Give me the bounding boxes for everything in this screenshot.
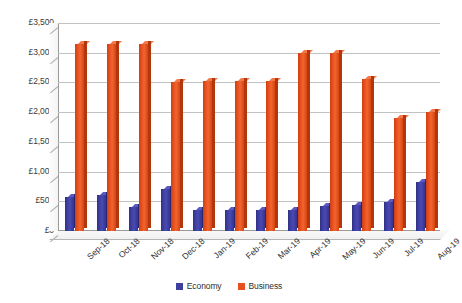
bar-economy (288, 210, 297, 231)
bar-business (203, 81, 212, 231)
bar-side-face (307, 50, 310, 228)
x-axis-tick-label: Sep-18 (85, 236, 112, 261)
bar-business (330, 53, 339, 231)
bar-economy (225, 210, 234, 231)
bar-side-face (212, 78, 215, 228)
bar-economy (161, 189, 170, 231)
bar-front-face (320, 206, 329, 231)
legend-item-economy[interactable]: Economy (176, 281, 222, 291)
bar-front-face (256, 210, 265, 231)
bar-group (256, 23, 275, 231)
bar-business (171, 82, 180, 231)
bar-side-face (116, 41, 119, 228)
bar-business (362, 79, 371, 231)
y-axis-tick-label: £1,500 (2, 137, 54, 146)
bar-side-face (371, 76, 374, 228)
bar-front-face (97, 195, 106, 231)
bar-side-face (84, 41, 87, 228)
bar-group (384, 23, 403, 231)
x-axis-tick-label: Apr-19 (307, 236, 332, 260)
bar-front-face (193, 210, 202, 231)
bar-business (266, 81, 275, 231)
bar-front-face (225, 210, 234, 231)
bar-economy (256, 210, 265, 231)
bar-business (298, 53, 307, 231)
bar-front-face (298, 53, 307, 231)
x-axis-tick-label: Mar-19 (276, 236, 302, 261)
bar-series-container (58, 23, 440, 231)
bar-front-face (161, 189, 170, 231)
bar-front-face (266, 81, 275, 231)
bar-front-face (352, 205, 361, 231)
legend-label: Economy (187, 281, 222, 291)
bar-group (352, 23, 371, 231)
bar-group (225, 23, 244, 231)
bar-side-face (180, 79, 183, 228)
bar-side-face (435, 109, 438, 228)
bar-front-face (107, 44, 116, 231)
bar-group (288, 23, 307, 231)
bar-front-face (362, 79, 371, 231)
bar-economy (384, 202, 393, 231)
bar-group (97, 23, 116, 231)
bar-side-face (244, 78, 247, 228)
bar-business (426, 112, 435, 231)
bar-economy (97, 195, 106, 231)
chart-side-wall (49, 23, 58, 231)
x-axis-tick-label: Dec-18 (180, 236, 207, 261)
bar-side-face (339, 50, 342, 228)
bar-business (235, 81, 244, 231)
bar-economy (65, 197, 74, 231)
y-axis-tick-label: £3,500 (2, 18, 54, 27)
bar-front-face (129, 207, 138, 231)
bar-economy (352, 205, 361, 231)
bar-front-face (65, 197, 74, 231)
bar-group (193, 23, 212, 231)
bar-side-face (275, 78, 278, 228)
x-axis-labels: Sep-18Oct-18Nov-18Dec-18Jan-19Feb-19Mar-… (58, 236, 440, 284)
y-axis-tick-label: £2,000 (2, 107, 54, 116)
bar-side-face (148, 41, 151, 228)
bar-front-face (75, 44, 84, 231)
bar-front-face (139, 44, 148, 231)
chart-legend: EconomyBusiness (0, 281, 458, 291)
bar-front-face (288, 210, 297, 231)
bar-front-face (384, 202, 393, 231)
bar-economy (129, 207, 138, 231)
bar-front-face (426, 112, 435, 231)
x-axis-tick-label: Aug-19 (435, 236, 462, 261)
x-axis-tick-label: Nov-18 (148, 236, 175, 261)
bar-front-face (203, 81, 212, 231)
bar-economy (193, 210, 202, 231)
y-axis-tick-label: £2,500 (2, 77, 54, 86)
bar-group (161, 23, 180, 231)
y-axis-tick-label: £0 (2, 226, 54, 235)
legend-swatch-icon (176, 283, 183, 290)
bar-front-face (235, 81, 244, 231)
legend-item-business[interactable]: Business (238, 281, 283, 291)
bar-business (107, 44, 116, 231)
bar-group (416, 23, 435, 231)
bar-group (65, 23, 84, 231)
y-axis-tick-label: £500 (2, 196, 54, 205)
x-axis-tick-label: Jan-19 (212, 236, 238, 260)
bar-front-face (330, 53, 339, 231)
bar-front-face (416, 182, 425, 231)
x-axis-tick-label: Jun-19 (371, 236, 397, 260)
bar-front-face (394, 118, 403, 231)
bar-economy (320, 206, 329, 231)
y-axis-labels: £0£500£1,000£1,500£2,000£2,500£3,000£3,5… (0, 0, 54, 260)
bar-business (394, 118, 403, 231)
x-axis-tick-label: Jul-19 (402, 236, 425, 259)
x-axis-tick-label: Feb-19 (244, 236, 270, 261)
bar-economy (416, 182, 425, 231)
legend-swatch-icon (238, 283, 245, 290)
y-axis-tick-label: £3,000 (2, 48, 54, 57)
bar-side-face (403, 115, 406, 228)
bar-group (129, 23, 148, 231)
bar-business (75, 44, 84, 231)
legend-label: Business (249, 281, 283, 291)
y-axis-tick-label: £1,000 (2, 167, 54, 176)
bar-group (320, 23, 339, 231)
